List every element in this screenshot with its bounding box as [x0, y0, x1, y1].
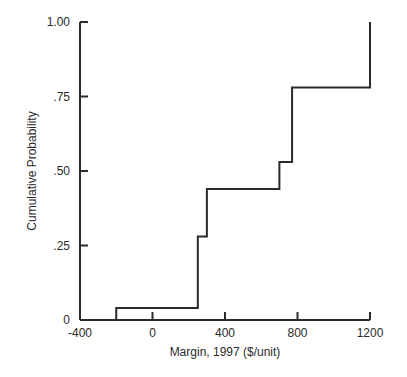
- cumulative-probability-chart: -40004008001200 0.25.50.751.00 Margin, 1…: [0, 0, 407, 377]
- x-tick-label: 800: [287, 326, 307, 340]
- x-tick-label: 400: [215, 326, 235, 340]
- y-tick-label: .25: [53, 239, 70, 253]
- y-tick-label: 0: [63, 313, 70, 327]
- y-axis-ticks: 0.25.50.751.00: [47, 15, 88, 327]
- axes: [80, 22, 370, 320]
- y-tick-label: 1.00: [47, 15, 71, 29]
- x-axis-title: Margin, 1997 ($/unit): [170, 345, 281, 359]
- plot-area: [116, 22, 370, 320]
- x-tick-label: 0: [149, 326, 156, 340]
- y-tick-label: .75: [53, 90, 70, 104]
- cumulative-step-line: [116, 22, 370, 320]
- x-tick-label: 1200: [357, 326, 384, 340]
- x-tick-label: -400: [68, 326, 92, 340]
- y-tick-label: .50: [53, 164, 70, 178]
- y-axis-title: Cumulative Probability: [25, 111, 39, 230]
